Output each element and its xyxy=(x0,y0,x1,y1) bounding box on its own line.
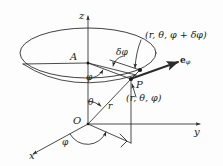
dot-apex-a xyxy=(87,62,90,65)
theta-label: θ xyxy=(88,98,93,107)
e-phi-vector-label: eφ xyxy=(180,56,190,66)
delta-phi-leader xyxy=(113,56,123,66)
z-axis-label: z xyxy=(79,11,84,21)
apex-label-a: A xyxy=(70,52,77,62)
shifted-point-coordinates: (r, θ, φ + δφ) xyxy=(145,30,207,40)
phi-azimuth-label: φ xyxy=(62,138,68,147)
shifted-point-leader xyxy=(135,40,141,68)
y-axis-label: y xyxy=(194,127,200,137)
point-label-p: P xyxy=(136,80,143,90)
phi-upper-label: φ xyxy=(86,73,92,82)
figure-canvas xyxy=(0,0,223,166)
radius-label: r xyxy=(108,102,112,111)
point-p-coordinates: (r, θ, φ) xyxy=(126,93,161,103)
x-axis xyxy=(33,124,88,154)
phi-azimuth-arc xyxy=(70,132,106,144)
x-axis-label: x xyxy=(29,151,35,161)
xy-projection xyxy=(88,124,131,143)
cone-slant-left xyxy=(23,63,88,64)
e-phi-subscript: φ xyxy=(186,58,191,66)
dot-origin-o xyxy=(87,123,90,126)
right-angle-marker xyxy=(120,134,127,147)
origin-label-o: O xyxy=(73,116,81,126)
spherical-coordinate-figure: z y x A P O φ θ φ r δφ (r, θ, φ + δφ) (r… xyxy=(0,0,223,166)
delta-phi-label: δφ xyxy=(116,48,128,57)
cap-arc xyxy=(23,64,136,83)
dot-point-p xyxy=(129,77,133,81)
cone-slant-right xyxy=(88,63,136,75)
dot-point-p-shifted xyxy=(138,68,142,72)
